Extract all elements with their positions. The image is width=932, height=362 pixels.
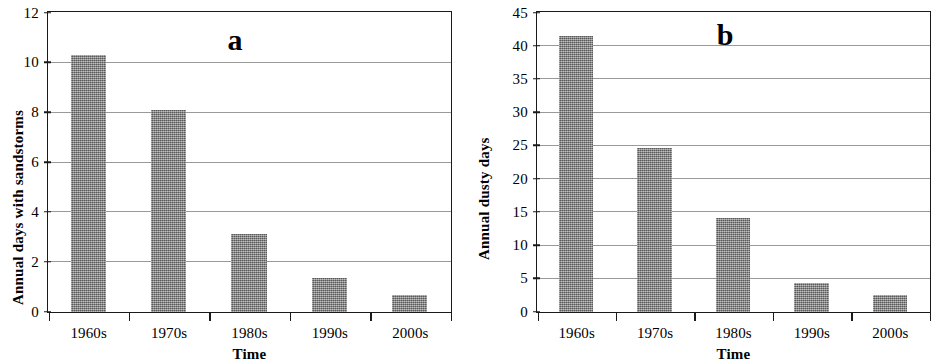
y-tick-label: 30 — [466, 105, 528, 120]
y-tick-mark — [533, 45, 540, 47]
y-tick-label: 8 — [0, 105, 39, 120]
panel-letter-a: a — [228, 25, 243, 55]
y-tick-label: 6 — [0, 155, 39, 170]
x-tick-label: 1990s — [794, 326, 830, 341]
x-tick-label: 1990s — [312, 326, 348, 341]
bar-1960s — [559, 36, 593, 312]
y-tick-label: 20 — [466, 171, 528, 186]
y-tick-mark — [533, 244, 540, 246]
bar-1980s — [716, 218, 750, 312]
x-tick-mark — [129, 313, 131, 321]
figure-sandstorm-dusty-days: Annual days with sandstorms 024681012 19… — [0, 0, 932, 362]
x-tick-label: 1980s — [231, 326, 267, 341]
y-tick-label: 0 — [0, 304, 39, 319]
x-tick-mark — [851, 313, 853, 321]
y-tick-mark — [44, 111, 51, 113]
x-tick-label: 2000s — [872, 326, 908, 341]
bar-1990s — [312, 278, 347, 312]
x-tick-mark — [930, 313, 932, 321]
y-tick-label: 12 — [0, 5, 39, 20]
x-tick-mark — [616, 313, 618, 321]
x-tick-mark — [538, 313, 540, 321]
y-tick-label: 0 — [466, 304, 528, 319]
chart-panel-b: Annual dusty days 051015202530354045 196… — [466, 0, 932, 362]
x-tick-label: 1970s — [637, 326, 673, 341]
x-tick-label: 1960s — [71, 326, 107, 341]
y-tick-label: 25 — [466, 138, 528, 153]
y-tick-mark — [533, 78, 540, 80]
bar-1970s — [637, 148, 671, 312]
y-tick-mark — [44, 62, 51, 64]
plot-area-b — [536, 11, 931, 313]
y-tick-mark — [533, 278, 540, 280]
y-tick-mark — [44, 161, 51, 163]
x-tick-label: 1980s — [715, 326, 751, 341]
x-axis-title-a: Time — [233, 346, 267, 362]
x-tick-mark — [370, 313, 372, 321]
y-tick-label: 15 — [466, 204, 528, 219]
bar-2000s — [392, 295, 427, 312]
panel-letter-b: b — [717, 20, 734, 50]
x-axis-title-b: Time — [717, 346, 751, 362]
y-tick-mark — [533, 111, 540, 113]
y-tick-mark — [44, 211, 51, 213]
bar-series-b — [537, 12, 930, 312]
x-tick-mark — [290, 313, 292, 321]
x-tick-label: 1960s — [559, 326, 595, 341]
y-tick-mark — [533, 211, 540, 213]
y-tick-mark — [44, 12, 51, 14]
bar-1970s — [151, 110, 186, 312]
y-tick-label: 45 — [466, 5, 528, 20]
x-tick-label: 2000s — [392, 326, 428, 341]
plot-area-a — [47, 11, 452, 313]
y-tick-label: 10 — [466, 238, 528, 253]
bar-1990s — [794, 283, 828, 312]
y-tick-label: 2 — [0, 254, 39, 269]
y-tick-label: 35 — [466, 71, 528, 86]
x-tick-mark — [209, 313, 211, 321]
x-tick-mark — [451, 313, 453, 321]
y-tick-label: 5 — [466, 271, 528, 286]
y-tick-mark — [533, 145, 540, 147]
bar-2000s — [873, 295, 907, 312]
y-tick-mark — [533, 12, 540, 14]
bar-series-a — [48, 12, 451, 312]
x-tick-label: 1970s — [151, 326, 187, 341]
y-tick-label: 10 — [0, 55, 39, 70]
x-tick-mark — [49, 313, 51, 321]
x-tick-mark — [773, 313, 775, 321]
chart-panel-a: Annual days with sandstorms 024681012 19… — [0, 0, 466, 362]
y-tick-label: 4 — [0, 204, 39, 219]
bar-1980s — [231, 234, 266, 312]
y-tick-mark — [533, 178, 540, 180]
x-tick-mark — [694, 313, 696, 321]
bar-1960s — [71, 55, 106, 312]
y-tick-mark — [44, 261, 51, 263]
y-tick-label: 40 — [466, 38, 528, 53]
